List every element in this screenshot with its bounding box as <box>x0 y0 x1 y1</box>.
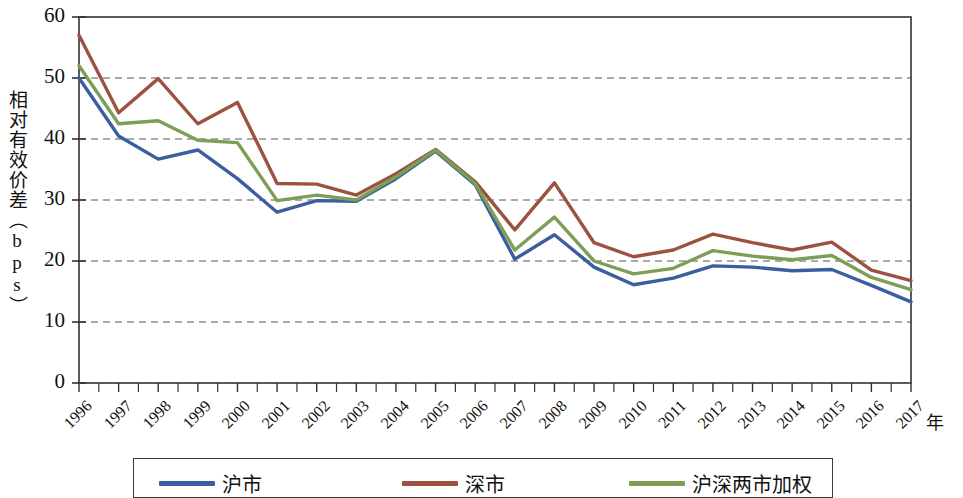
series-line-1 <box>79 78 911 302</box>
legend-item-3[interactable]: 沪深两市加权 <box>629 469 812 498</box>
data-series <box>79 35 911 302</box>
chart-legend: 沪市深市沪深两市加权 <box>133 458 833 498</box>
axis-ticks <box>72 17 911 392</box>
y-tick-label: 0 <box>25 369 65 394</box>
x-axis-title: 年 <box>926 408 944 434</box>
legend-swatch-icon <box>402 481 458 486</box>
y-tick-label: 40 <box>25 125 65 150</box>
legend-item-1[interactable]: 沪市 <box>159 469 262 498</box>
legend-label: 沪深两市加权 <box>692 469 812 498</box>
legend-label: 深市 <box>465 469 505 498</box>
y-tick-label: 60 <box>25 3 65 28</box>
gridlines <box>79 78 911 322</box>
y-tick-label: 10 <box>25 308 65 333</box>
series-line-3 <box>79 66 911 290</box>
y-tick-label: 20 <box>25 247 65 272</box>
legend-label: 沪市 <box>222 469 262 498</box>
y-tick-label: 30 <box>25 186 65 211</box>
legend-item-2[interactable]: 深市 <box>402 469 505 498</box>
series-line-2 <box>79 35 911 280</box>
legend-swatch-icon <box>159 481 215 486</box>
y-tick-label: 50 <box>25 64 65 89</box>
legend-swatch-icon <box>629 481 685 486</box>
